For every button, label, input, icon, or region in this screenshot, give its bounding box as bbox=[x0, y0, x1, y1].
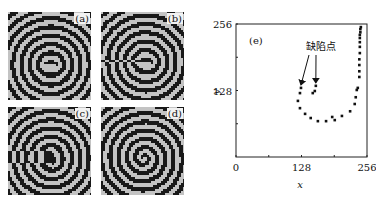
data-point bbox=[331, 116, 334, 119]
data-point bbox=[358, 64, 361, 67]
data-point bbox=[354, 96, 357, 99]
data-point bbox=[299, 92, 302, 95]
y-axis-label: y bbox=[210, 89, 221, 96]
defect-arrow bbox=[301, 55, 309, 85]
data-point bbox=[359, 46, 362, 49]
data-point bbox=[304, 113, 307, 116]
x-axis-label: x bbox=[297, 179, 303, 190]
data-point bbox=[359, 52, 362, 55]
data-point bbox=[311, 92, 314, 95]
data-point bbox=[309, 117, 312, 120]
defect-annotation: 缺陷点 bbox=[306, 40, 336, 52]
data-point bbox=[358, 58, 361, 61]
data-point bbox=[359, 41, 362, 44]
data-point bbox=[359, 37, 362, 40]
x-tick-label: 0 bbox=[233, 162, 239, 173]
data-point bbox=[359, 34, 362, 37]
annotation-arrows bbox=[301, 55, 316, 85]
data-point bbox=[341, 115, 344, 118]
data-point bbox=[353, 103, 356, 106]
data-point bbox=[299, 107, 302, 110]
panel-label-e: (e) bbox=[249, 35, 263, 46]
data-point bbox=[359, 31, 362, 34]
data-point bbox=[356, 87, 359, 90]
axis-tick-labels: 0128256128256 bbox=[213, 19, 376, 173]
x-tick-label: 256 bbox=[357, 162, 376, 173]
y-tick-label: 256 bbox=[213, 19, 232, 30]
data-point bbox=[360, 26, 363, 29]
data-point bbox=[317, 120, 320, 123]
data-point bbox=[358, 76, 361, 79]
data-point bbox=[297, 100, 300, 103]
data-point bbox=[333, 119, 336, 122]
x-tick-label: 128 bbox=[292, 162, 311, 173]
data-point bbox=[300, 87, 303, 90]
data-point bbox=[315, 85, 318, 88]
data-point bbox=[358, 70, 361, 73]
data-point bbox=[349, 110, 352, 113]
trajectory-chart: 0128256128256 x y (e) 缺陷点 bbox=[0, 0, 376, 197]
data-point bbox=[325, 120, 328, 123]
